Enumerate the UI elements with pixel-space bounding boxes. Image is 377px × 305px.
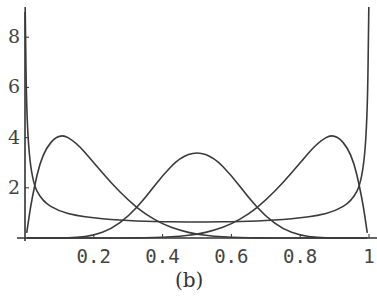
x-tick-label: 1	[363, 245, 374, 267]
curve-center-peak	[27, 153, 368, 238]
x-tick-label: 0.4	[145, 245, 179, 267]
y-tick-label: 6	[8, 75, 20, 97]
curves	[25, 7, 369, 238]
y-tick-label: 2	[8, 176, 20, 198]
chart-plot	[0, 0, 377, 305]
figure-caption: (b)	[175, 268, 203, 292]
curve-u-shaped-arcsine-like-	[25, 7, 369, 222]
x-tick-label: 0.6	[214, 245, 248, 267]
y-tick-label: 4	[8, 126, 20, 148]
axes	[17, 12, 377, 241]
x-tick-label: 0.2	[77, 245, 111, 267]
x-tick-label: 0.8	[283, 245, 317, 267]
y-tick-label: 8	[8, 25, 20, 47]
